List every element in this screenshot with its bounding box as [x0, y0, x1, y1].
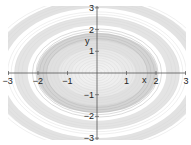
contour-plot: −3−2−1123 321−1−2−3 x y	[0, 0, 191, 145]
x-tick-label: −1	[62, 76, 72, 86]
x-tick-label: 3	[183, 76, 188, 86]
y-tick-label: −3	[84, 133, 94, 143]
x-tick-label: −2	[33, 76, 43, 86]
y-axis-label: y	[85, 36, 90, 46]
y-tick-label: −2	[84, 111, 94, 121]
x-axis-label: x	[142, 75, 147, 85]
y-tick-label: 3	[89, 3, 94, 13]
contour-bands	[0, 0, 191, 145]
y-tick-label: 2	[89, 25, 94, 35]
x-tick-label: −3	[3, 76, 13, 86]
x-tick-label: 2	[153, 76, 158, 86]
y-tick-label: −1	[84, 90, 94, 100]
y-tick-label: 1	[89, 46, 94, 56]
x-tick-label: 1	[124, 76, 129, 86]
